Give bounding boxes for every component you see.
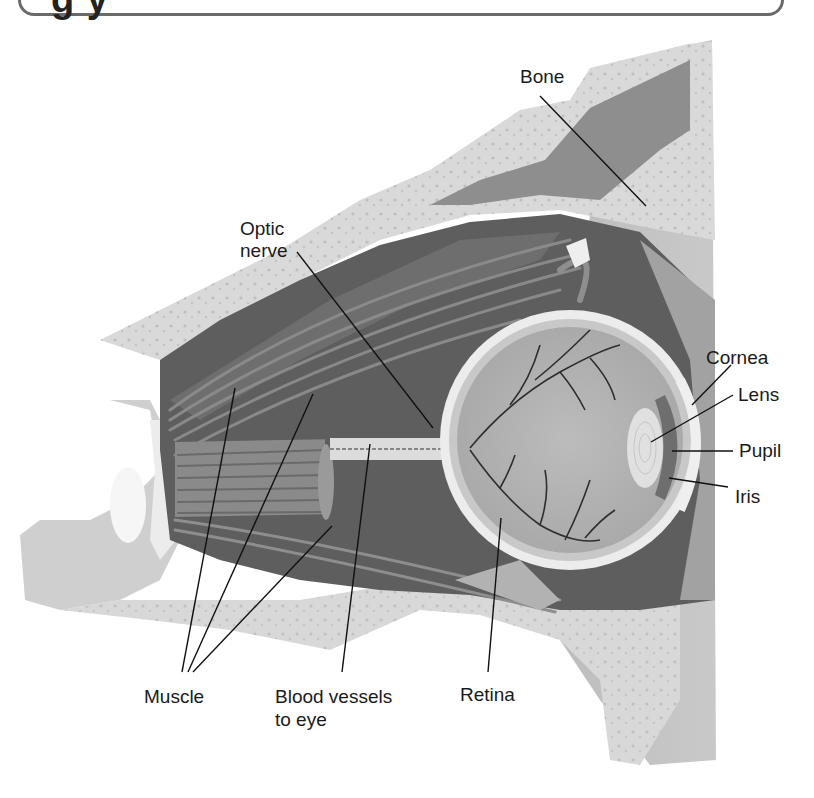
label-lens: Lens <box>738 384 779 406</box>
label-optic-nerve-line1: Optic <box>240 218 284 240</box>
label-cornea: Cornea <box>706 347 768 369</box>
label-iris: Iris <box>735 486 760 508</box>
label-bone: Bone <box>520 66 564 88</box>
label-retina: Retina <box>460 684 515 706</box>
label-blood-vessels-line2: to eye <box>275 709 327 731</box>
eyeball <box>440 310 700 570</box>
eye-anatomy-illustration <box>0 0 814 798</box>
label-muscle: Muscle <box>144 686 204 708</box>
label-pupil: Pupil <box>739 440 781 462</box>
label-optic-nerve-line2: nerve <box>240 240 288 262</box>
label-blood-vessels-line1: Blood vessels <box>275 686 392 708</box>
bone-left <box>20 400 180 610</box>
